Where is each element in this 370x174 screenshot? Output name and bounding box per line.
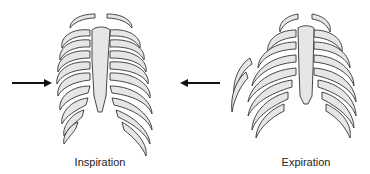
diagram-canvas	[0, 0, 370, 174]
rib-cage-inspiration	[57, 14, 152, 156]
expiration-label: Expiration	[282, 156, 331, 168]
inspiration-label: Inspiration	[75, 156, 126, 168]
rib-cage-expiration	[232, 14, 356, 138]
rib-cage-diagram: Inspiration Expiration	[0, 0, 370, 174]
